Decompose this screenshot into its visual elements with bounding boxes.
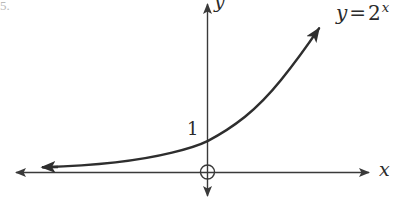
equation-base: 2 [368, 1, 381, 25]
equation-exponent: x [382, 0, 389, 15]
y-axis-label: y [214, 0, 225, 11]
exponential-curve [44, 28, 319, 167]
equation-left-side: y [336, 1, 347, 25]
equation-equals-sign: = [349, 1, 366, 25]
exponential-function-figure: y=2x x y 1 5. [0, 0, 406, 205]
curve-equation-label: y=2x [336, 1, 389, 23]
x-axis-label: x [379, 160, 390, 179]
graph-canvas [0, 0, 406, 205]
y-intercept-label: 1 [187, 120, 198, 138]
page-corner-artifact: 5. [0, 0, 10, 14]
